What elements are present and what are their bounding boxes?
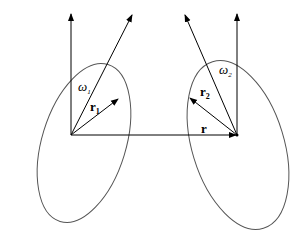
r1-label: r1 (90, 99, 100, 116)
left-body (20, 14, 148, 234)
r-label: r (201, 121, 207, 136)
right-body (169, 14, 308, 237)
r2-arrow (190, 98, 237, 135)
right-origin-dot (236, 134, 239, 137)
omega1-label: ω1 (78, 79, 91, 96)
omega2-label: ω2 (219, 62, 232, 79)
two-body-rotation-diagram: ω1 r1 ω2 r2 r (0, 0, 308, 237)
right-ellipse (169, 48, 308, 237)
omega1-arrow (71, 15, 132, 135)
r2-label: r2 (200, 84, 210, 101)
